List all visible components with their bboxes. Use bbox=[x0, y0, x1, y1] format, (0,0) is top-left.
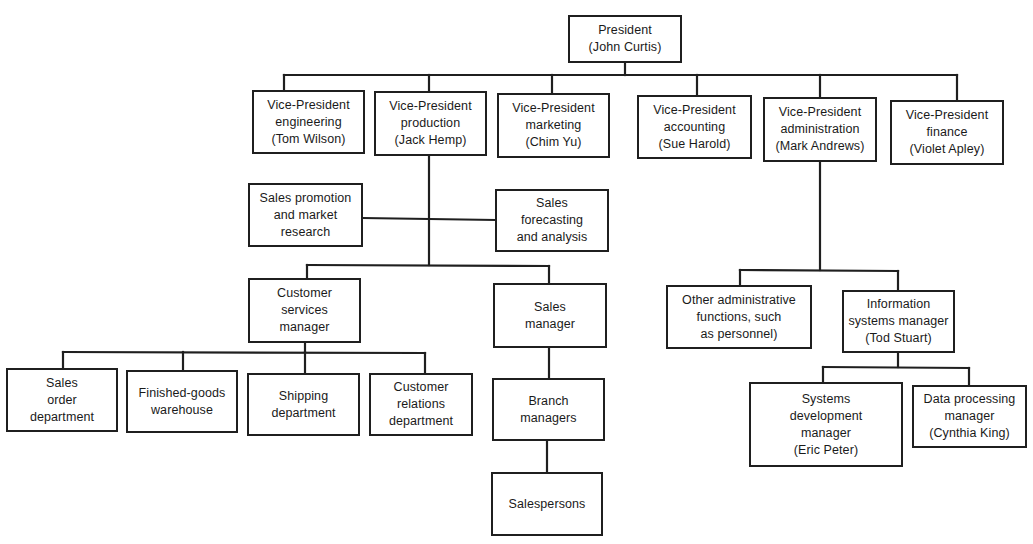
node-label-line: (Chim Yu) bbox=[525, 134, 581, 151]
node-label-line: relations bbox=[397, 396, 445, 413]
node-label-line: finance bbox=[926, 124, 967, 141]
node-label-line: (Mark Andrews) bbox=[776, 138, 865, 155]
node-label-line: (Cynthia King) bbox=[929, 425, 1010, 442]
node-vp-engineering: Vice-Presidentengineering(Tom Wilson) bbox=[252, 90, 365, 154]
node-label-line: (Jack Hemp) bbox=[395, 132, 467, 149]
node-label-line: development bbox=[790, 408, 863, 425]
node-other-admin-functions: Other administrativefunctions, suchas pe… bbox=[666, 285, 812, 349]
connector-line bbox=[363, 218, 495, 220]
node-label-line: Customer bbox=[277, 285, 332, 302]
node-label-line: marketing bbox=[526, 117, 582, 134]
node-label-line: and market bbox=[274, 207, 338, 224]
node-label-line: department bbox=[271, 405, 335, 422]
node-vp-production: Vice-Presidentproduction(Jack Hemp) bbox=[374, 91, 487, 156]
node-label-line: manager bbox=[525, 316, 575, 333]
node-label-line: and analysis bbox=[517, 229, 588, 246]
node-label-line: (Violet Apley) bbox=[910, 141, 985, 158]
node-sales-manager: Salesmanager bbox=[493, 283, 607, 348]
node-label-line: department bbox=[389, 413, 453, 430]
node-label-line: Vice-President bbox=[779, 104, 861, 121]
node-label-line: Sales bbox=[46, 375, 78, 392]
node-label-line: Vice-President bbox=[906, 107, 988, 124]
node-label-line: Vice-President bbox=[389, 98, 471, 115]
node-label-line: order bbox=[47, 392, 77, 409]
node-shipping-department: Shippingdepartment bbox=[247, 373, 360, 436]
node-finished-goods-warehouse: Finished-goodswarehouse bbox=[126, 370, 238, 433]
node-label-line: services bbox=[281, 302, 328, 319]
node-label-line: research bbox=[281, 224, 330, 241]
node-label-line: managers bbox=[520, 410, 576, 427]
node-vp-accounting: Vice-Presidentaccounting(Sue Harold) bbox=[637, 95, 752, 159]
node-label-line: Other administrative bbox=[682, 292, 796, 309]
node-president: President(John Curtis) bbox=[568, 15, 682, 63]
node-data-processing-manager: Data processingmanager(Cynthia King) bbox=[912, 385, 1027, 448]
node-label-line: (Tom Wilson) bbox=[271, 131, 345, 148]
node-label-line: Finished-goods bbox=[139, 385, 226, 402]
node-label-line: engineering bbox=[275, 114, 341, 131]
node-vp-marketing: Vice-Presidentmarketing(Chim Yu) bbox=[497, 93, 610, 158]
node-label-line: Shipping bbox=[279, 388, 328, 405]
node-customer-relations-department: Customerrelationsdepartment bbox=[369, 373, 473, 436]
node-label-line: manager bbox=[279, 319, 329, 336]
node-label-line: Sales promotion bbox=[260, 190, 352, 207]
node-label-line: as personnel) bbox=[700, 326, 777, 343]
node-label-line: warehouse bbox=[151, 402, 213, 419]
node-label-line: Systems bbox=[802, 391, 851, 408]
node-label-line: accounting bbox=[664, 119, 725, 136]
node-label-line: systems manager bbox=[848, 313, 948, 330]
org-chart: President(John Curtis) Vice-Presidenteng… bbox=[0, 0, 1033, 544]
node-label-line: Vice-President bbox=[512, 100, 594, 117]
node-label-line: Salespersons bbox=[509, 496, 586, 513]
node-label-line: department bbox=[30, 409, 94, 426]
node-sales-forecasting: Salesforecastingand analysis bbox=[495, 189, 609, 252]
connector-line bbox=[823, 367, 969, 368]
node-label-line: manager bbox=[801, 425, 851, 442]
node-label-line: Data processing bbox=[924, 391, 1016, 408]
connector-line bbox=[740, 270, 898, 271]
node-customer-services-manager: Customerservicesmanager bbox=[248, 278, 361, 343]
node-label-line: forecasting bbox=[521, 212, 583, 229]
node-label-line: Vice-President bbox=[653, 102, 735, 119]
node-label-line: manager bbox=[944, 408, 994, 425]
node-salespersons: Salespersons bbox=[491, 472, 603, 536]
node-label-line: Sales bbox=[536, 195, 568, 212]
node-systems-development-manager: Systemsdevelopmentmanager(Eric Peter) bbox=[749, 382, 903, 467]
node-label-line: Branch bbox=[528, 393, 568, 410]
node-vp-finance: Vice-Presidentfinance(Violet Apley) bbox=[890, 100, 1004, 165]
node-sales-order-department: Salesorderdepartment bbox=[6, 368, 118, 432]
node-label-line: Information bbox=[867, 296, 931, 313]
node-branch-managers: Branchmanagers bbox=[492, 378, 605, 441]
node-label-line: (Eric Peter) bbox=[794, 442, 858, 459]
node-label-line: Sales bbox=[534, 299, 566, 316]
node-sales-promotion: Sales promotionand marketresearch bbox=[248, 183, 363, 247]
node-label-line: (John Curtis) bbox=[589, 39, 662, 56]
node-label-line: production bbox=[401, 115, 460, 132]
node-info-systems-manager: Informationsystems manager(Tod Stuart) bbox=[842, 290, 955, 353]
node-label-line: Customer bbox=[394, 379, 449, 396]
connector-line bbox=[63, 352, 425, 353]
node-label-line: President bbox=[598, 22, 652, 39]
connector-line bbox=[307, 265, 549, 266]
node-label-line: Vice-President bbox=[267, 97, 349, 114]
node-label-line: (Tod Stuart) bbox=[865, 330, 932, 347]
node-label-line: (Sue Harold) bbox=[658, 136, 730, 153]
node-label-line: administration bbox=[780, 121, 859, 138]
node-label-line: functions, such bbox=[697, 309, 782, 326]
node-vp-administration: Vice-Presidentadministration(Mark Andrew… bbox=[763, 97, 877, 162]
